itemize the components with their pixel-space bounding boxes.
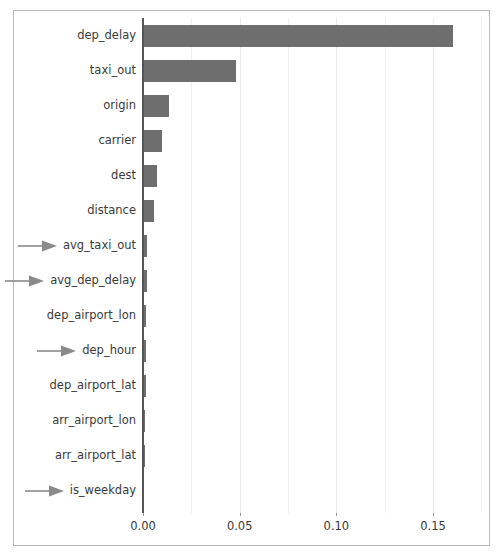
- gridline: [385, 18, 386, 513]
- right-arrow-icon: [17, 228, 63, 263]
- x-tick-mark: [143, 513, 144, 516]
- category-label-dest: dest: [0, 158, 136, 193]
- right-arrow-icon: [4, 263, 50, 298]
- gridline: [240, 18, 241, 513]
- x-tick-label-0.10: 0.10: [306, 519, 366, 533]
- y-axis-spine: [142, 18, 144, 513]
- category-label-origin: origin: [0, 88, 136, 123]
- bar-avg_dep_delay: [143, 270, 147, 292]
- bar-avg_taxi_out: [143, 235, 147, 257]
- category-label-dep_airport_lat: dep_airport_lat: [0, 368, 136, 403]
- category-label-taxi_out: taxi_out: [0, 53, 136, 88]
- category-label-row: avg_taxi_out: [0, 228, 136, 263]
- bar-carrier: [143, 130, 162, 152]
- category-label-row: distance: [0, 193, 136, 228]
- category-label-row: arr_airport_lon: [0, 403, 136, 438]
- category-label-distance: distance: [0, 193, 136, 228]
- x-tick-label-0.00: 0.00: [113, 519, 173, 533]
- bar-origin: [143, 95, 169, 117]
- category-label-row: dep_airport_lat: [0, 368, 136, 403]
- bar-distance: [143, 200, 154, 222]
- category-label-row: taxi_out: [0, 53, 136, 88]
- category-label-row: is_weekday: [0, 473, 136, 508]
- bar-dest: [143, 165, 157, 187]
- category-label-dep_delay: dep_delay: [0, 18, 136, 53]
- x-tick-mark: [433, 513, 434, 516]
- x-tick-label-0.05: 0.05: [210, 519, 270, 533]
- category-label-arr_airport_lat: arr_airport_lat: [0, 438, 136, 473]
- gridline: [433, 18, 434, 513]
- category-label-row: dep_delay: [0, 18, 136, 53]
- gridline: [481, 18, 482, 513]
- x-tick-mark: [240, 513, 241, 516]
- category-label-row: dep_airport_lon: [0, 298, 136, 333]
- gridline: [191, 18, 192, 513]
- category-label-row: avg_dep_delay: [0, 263, 136, 298]
- x-tick-mark: [336, 513, 337, 516]
- category-label-arr_airport_lon: arr_airport_lon: [0, 403, 136, 438]
- feature-importance-chart: dep_delaytaxi_outorigincarrierdestdistan…: [0, 0, 503, 556]
- category-label-row: carrier: [0, 123, 136, 158]
- plot-area: [143, 18, 483, 513]
- category-label-row: dest: [0, 158, 136, 193]
- category-label-row: dep_hour: [0, 333, 136, 368]
- category-label-row: arr_airport_lat: [0, 438, 136, 473]
- category-label-row: origin: [0, 88, 136, 123]
- bar-taxi_out: [143, 60, 236, 82]
- gridline: [336, 18, 337, 513]
- gridline: [288, 18, 289, 513]
- bar-dep_delay: [143, 25, 453, 47]
- x-tick-label-0.15: 0.15: [403, 519, 463, 533]
- category-label-carrier: carrier: [0, 123, 136, 158]
- right-arrow-icon: [24, 473, 70, 508]
- right-arrow-icon: [36, 333, 82, 368]
- category-label-dep_airport_lon: dep_airport_lon: [0, 298, 136, 333]
